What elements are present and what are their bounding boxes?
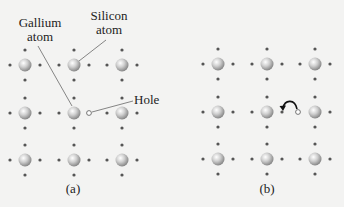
valence-electron [72,96,75,99]
valence-electron [298,62,301,65]
valence-electron [216,77,219,80]
valence-electron [72,78,75,81]
valence-electron [72,143,75,146]
valence-electron [105,158,108,161]
valence-electron [135,111,138,114]
atom [261,106,274,119]
atom [19,154,32,167]
valence-electron [23,143,26,146]
atom [116,154,129,167]
valence-electron [265,125,268,128]
valence-electron [38,158,41,161]
valence-electron [298,157,301,160]
atom [68,107,81,120]
valence-electron [135,63,138,66]
valence-electron [8,63,11,66]
valence-electron [201,110,204,113]
valence-electron [313,95,316,98]
valence-electron [120,126,123,129]
valence-electron [23,48,26,51]
valence-electron [231,157,234,160]
valence-electron [250,157,253,160]
valence-electron [280,62,283,65]
caption-a: (a) [58,182,88,196]
valence-electron [57,63,60,66]
valence-electron [201,62,204,65]
hole-marker [296,110,301,115]
valence-electron [38,111,41,114]
atom [261,58,274,71]
valence-electron [57,158,60,161]
valence-electron [23,96,26,99]
panel-b-lattice [201,47,331,175]
valence-electron [120,96,123,99]
atom [68,154,81,167]
valence-electron [265,47,268,50]
valence-electron [201,157,204,160]
valence-electron [313,172,316,175]
atom [309,153,322,166]
valence-electron [23,126,26,129]
atom [212,106,225,119]
valence-electron [216,172,219,175]
caption-b: (b) [252,182,282,196]
valence-electron [231,110,234,113]
valence-electron [231,62,234,65]
valence-electron [120,48,123,51]
gallium-atom-label: Gallium atom [10,16,70,44]
valence-electron [280,157,283,160]
valence-electron [87,158,90,161]
atom [116,59,129,72]
valence-electron [328,62,331,65]
gallium-label-line2: atom [10,30,70,44]
valence-electron [216,95,219,98]
valence-electron [120,78,123,81]
silicon-label-line1: Silicon [79,9,139,23]
atom [309,106,322,119]
valence-electron [23,78,26,81]
valence-electron [328,157,331,160]
valence-electron [250,110,253,113]
valence-electron [313,142,316,145]
atom [116,107,129,120]
valence-electron [72,48,75,51]
atom [212,58,225,71]
atom [212,153,225,166]
valence-electron [87,63,90,66]
hole-label: Hole [134,93,159,107]
panel-a-lattice [8,48,138,176]
valence-electron [313,77,316,80]
valence-electron [216,125,219,128]
valence-electron [280,110,283,113]
valence-electron [265,77,268,80]
valence-electron [265,142,268,145]
valence-electron [105,63,108,66]
arrowhead-icon [280,106,287,112]
valence-electron [216,47,219,50]
valence-electron [328,110,331,113]
valence-electron [8,158,11,161]
atom [68,59,81,72]
valence-electron [72,173,75,176]
valence-electron [120,143,123,146]
valence-electron [250,62,253,65]
valence-electron [135,158,138,161]
annotations [38,40,297,112]
silicon-atom-label: Silicon atom [79,9,139,37]
silicon-label-line2: atom [79,23,139,37]
silicon-leader-line [79,40,106,61]
hole-marker [87,111,92,116]
valence-electron [313,125,316,128]
valence-electron [120,173,123,176]
valence-electron [8,111,11,114]
atom [19,107,32,120]
valence-electron [313,47,316,50]
atom [261,153,274,166]
atom [309,58,322,71]
valence-electron [23,173,26,176]
gallium-label-line1: Gallium [10,16,70,30]
valence-electron [265,172,268,175]
atom [19,59,32,72]
valence-electron [57,111,60,114]
gallium-leader-line [38,46,72,106]
